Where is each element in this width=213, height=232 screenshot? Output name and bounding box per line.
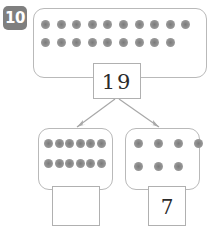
dot-row [41, 38, 199, 47]
dot [103, 20, 112, 29]
dot [65, 139, 74, 148]
dot [86, 139, 95, 148]
dot [154, 139, 163, 148]
dot-row [44, 159, 107, 168]
arrow-left-head [77, 120, 86, 127]
dot [55, 139, 64, 148]
dot [174, 162, 183, 171]
dot [76, 139, 85, 148]
left-part-answer-box[interactable] [52, 186, 100, 226]
right-part-dot-frame [125, 128, 200, 190]
left-part-dot-frame [38, 128, 113, 190]
dot [72, 20, 81, 29]
dot [44, 139, 53, 148]
right-part-dot-grid [126, 129, 199, 171]
dot-row [134, 139, 191, 148]
dot [150, 20, 159, 29]
dot [57, 20, 66, 29]
dot [88, 20, 97, 29]
dot [134, 162, 143, 171]
arrow-left-line [77, 99, 115, 127]
dot [134, 139, 143, 148]
dot [166, 38, 175, 47]
dot-row [41, 20, 199, 29]
dot [44, 159, 53, 168]
dot [55, 159, 64, 168]
dot [181, 20, 190, 29]
dot [88, 38, 97, 47]
problem-number-badge: 10 [3, 6, 27, 30]
dot [150, 38, 159, 47]
dot [103, 38, 112, 47]
dot [135, 20, 144, 29]
total-dot-grid [34, 9, 206, 47]
dot [119, 38, 128, 47]
dot [174, 139, 183, 148]
dot [97, 139, 106, 148]
dot [57, 38, 66, 47]
dot [65, 159, 74, 168]
dot [76, 159, 85, 168]
dot [194, 139, 203, 148]
dot [86, 159, 95, 168]
dot [97, 159, 106, 168]
dot-row [44, 139, 107, 148]
dot [135, 38, 144, 47]
left-part-dot-grid [39, 129, 112, 168]
right-part-value-box[interactable]: 7 [148, 186, 186, 226]
worksheet-problem: 10 [0, 0, 213, 232]
dot [72, 38, 81, 47]
dot-row [134, 162, 191, 171]
dot [41, 20, 50, 29]
dot [166, 20, 175, 29]
total-value-box[interactable]: 19 [93, 63, 141, 99]
dot [41, 38, 50, 47]
arrow-right-line [119, 99, 159, 127]
dot [119, 20, 128, 29]
arrow-right-head [150, 120, 159, 127]
dot [154, 162, 163, 171]
